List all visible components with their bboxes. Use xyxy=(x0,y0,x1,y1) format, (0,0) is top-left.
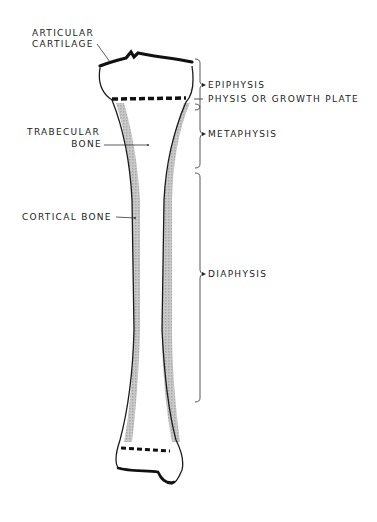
bone-illustration xyxy=(0,0,377,522)
label-physis: PHYSIS OR GROWTH PLATE xyxy=(208,94,359,105)
label-articular-cartilage-line2: CARTILAGE xyxy=(32,39,94,50)
label-trabecular-bone-line2: BONE xyxy=(22,139,102,150)
bracket-diaphysis xyxy=(195,173,203,402)
label-metaphysis: METAPHYSIS xyxy=(208,129,277,140)
growth-plate-bottom xyxy=(121,448,170,451)
label-diaphysis: DIAPHYSIS xyxy=(208,269,267,280)
long-bone-diagram: ARTICULAR CARTILAGE TRABECULAR BONE CORT… xyxy=(0,0,377,522)
bracket-metaphysis xyxy=(195,104,203,168)
articular-cartilage-bottom xyxy=(118,468,174,483)
label-cortical-bone: CORTICAL BONE xyxy=(22,212,112,223)
cortical-bone-right xyxy=(162,103,190,442)
label-articular-cartilage-line1: ARTICULAR xyxy=(32,28,94,39)
label-epiphysis: EPIPHYSIS xyxy=(208,80,265,91)
label-trabecular-bone-line1: TRABECULAR xyxy=(22,127,100,138)
leader-articular-cartilage xyxy=(97,44,110,62)
growth-plate-top xyxy=(112,98,186,99)
bracket-epiphysis xyxy=(195,59,203,110)
articular-cartilage xyxy=(100,52,192,66)
cortical-bone-left xyxy=(116,103,140,442)
